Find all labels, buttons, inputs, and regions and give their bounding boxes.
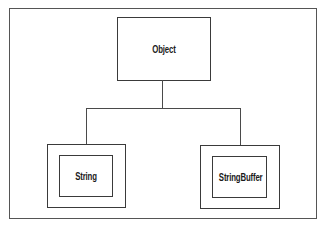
- stringbuffer-node-inner: StringBuffer: [212, 156, 267, 198]
- object-node: Object: [117, 17, 211, 81]
- connector-stringbuffer: [240, 108, 241, 146]
- stringbuffer-node-outer: StringBuffer: [200, 145, 280, 209]
- stringbuffer-label: StringBuffer: [219, 172, 260, 183]
- string-node-inner: String: [59, 155, 113, 197]
- object-label: Object: [128, 44, 200, 55]
- connector-trunk: [162, 80, 163, 109]
- connector-string: [86, 108, 87, 145]
- string-node-outer: String: [47, 144, 126, 208]
- connector-branch: [86, 108, 241, 109]
- string-label: String: [66, 171, 107, 182]
